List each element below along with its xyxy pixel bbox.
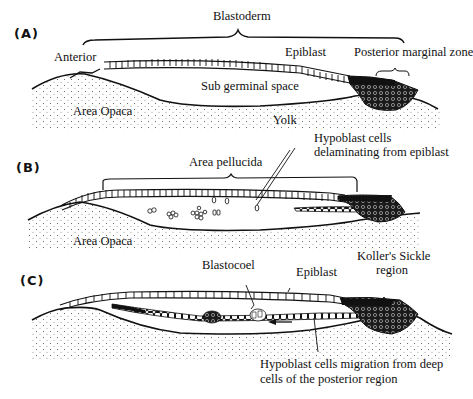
label-sub-germinal-space: Sub germinal space [201,79,299,93]
label-area-opaca-a: Area Opaca [73,104,132,118]
label-hypoblast-delaminating-line2: delaminating from epiblast [314,145,449,159]
label-hypoblast-migration-line1: Hypoblast cells migration from deep [260,357,443,371]
panel-c-drawing [32,285,452,360]
label-blastoderm: Blastoderm [213,9,271,23]
label-epiblast-c: Epiblast [296,265,337,279]
panel-a-tag: (A) [14,26,39,41]
label-yolk: Yolk [273,113,297,127]
label-anterior: Anterior [54,50,96,64]
label-posterior-marginal-zone: Posterior marginal zone [354,45,473,59]
label-hypoblast-migration-line2: cells of the posterior region [260,372,397,386]
label-kollers-sickle-line1: Koller's Sickle [357,249,430,263]
panel-b-tag: (B) [16,160,41,175]
label-blastocoel: Blastocoel [202,258,255,272]
label-kollers-sickle-line2: region [376,263,408,277]
label-area-pellucida: Area pellucida [189,155,262,169]
label-hypoblast-delaminating-line1: Hypoblast cells [314,131,391,145]
label-area-opaca-b: Area Opaca [73,234,132,248]
embryo-diagram: (A) (B) (C) Blastoderm Anterior Epiblast… [0,0,473,399]
label-epiblast-a: Epiblast [285,45,326,59]
panel-c-tag: (C) [20,273,44,288]
